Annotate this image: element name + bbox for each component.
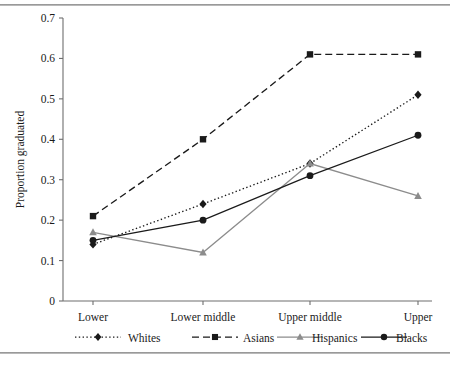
marker-diamond xyxy=(414,91,421,99)
y-tick-label: 0.3 xyxy=(41,174,56,186)
series-line xyxy=(93,164,418,253)
marker-square xyxy=(307,51,313,57)
y-tick-label: 0.6 xyxy=(41,52,56,64)
legend-item-asians[interactable] xyxy=(192,334,238,340)
marker-diamond xyxy=(95,333,102,341)
marker-circle xyxy=(415,132,422,139)
marker-square xyxy=(200,136,206,142)
y-axis-label: Proportion graduated xyxy=(14,111,27,209)
series-whites xyxy=(89,91,421,249)
series-asians xyxy=(90,51,421,219)
marker-diamond xyxy=(199,200,206,208)
x-tick-label: Upper xyxy=(404,311,433,324)
marker-square xyxy=(212,334,218,340)
y-tick-label: 0.2 xyxy=(41,214,56,226)
y-tick-label: 0.1 xyxy=(41,255,56,267)
x-tick-label: Upper middle xyxy=(278,311,342,324)
x-tick-label: Lower xyxy=(78,311,108,323)
figure-container: 00.10.20.30.40.50.60.7Proportion graduat… xyxy=(0,0,450,366)
series-line xyxy=(93,54,418,216)
line-chart: 00.10.20.30.40.50.60.7Proportion graduat… xyxy=(0,0,450,352)
figure-caption xyxy=(6,357,446,365)
marker-circle xyxy=(381,334,387,340)
series-line xyxy=(93,135,418,240)
marker-triangle xyxy=(89,228,97,235)
x-tick-label: Lower middle xyxy=(171,311,236,323)
marker-circle xyxy=(200,217,207,224)
marker-square xyxy=(90,213,96,219)
series-hispanics xyxy=(89,160,422,256)
legend-label: Blacks xyxy=(396,332,428,344)
marker-circle xyxy=(307,172,314,179)
legend-item-whites[interactable] xyxy=(75,333,121,341)
bottom-divider-rule xyxy=(0,352,450,354)
marker-square xyxy=(415,51,421,57)
y-tick-label: 0.7 xyxy=(41,12,56,24)
y-tick-label: 0 xyxy=(49,295,55,307)
legend-label: Whites xyxy=(128,332,161,344)
series-line xyxy=(93,95,418,245)
y-tick-label: 0.5 xyxy=(41,93,56,105)
y-tick-label: 0.4 xyxy=(41,133,56,145)
legend-label: Hispanics xyxy=(312,332,358,345)
legend-label: Asians xyxy=(243,332,275,344)
marker-circle xyxy=(90,237,97,244)
